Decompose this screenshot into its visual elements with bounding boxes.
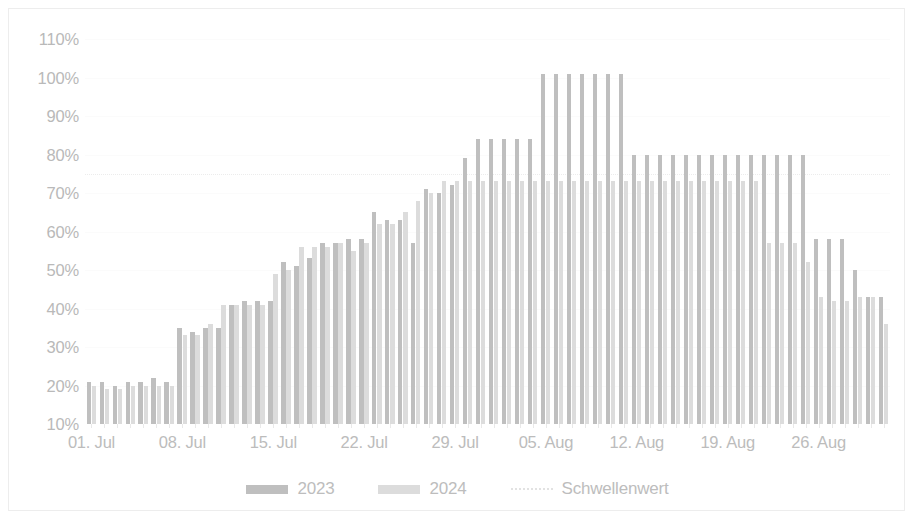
bar-2024-26Aug	[819, 297, 823, 424]
x-tick	[91, 424, 92, 428]
bar-2024-06Aug	[559, 181, 563, 424]
bar-2023-02Jul	[100, 382, 104, 424]
bar-2024-23Jul	[377, 224, 381, 424]
plot-area	[85, 39, 890, 424]
y-axis-label: 10%	[47, 415, 79, 434]
x-axis-label: 29. Jul	[431, 433, 478, 452]
bar-2024-12Jul	[234, 305, 238, 424]
y-axis-label: 80%	[47, 145, 79, 164]
chart-frame: 110%100%90%80%70%60%50%40%30%20%10% 01. …	[8, 8, 905, 511]
x-tick	[390, 424, 391, 428]
bar-2023-18Jul	[307, 258, 311, 424]
bar-2023-09Aug	[593, 74, 597, 424]
x-tick	[520, 424, 521, 428]
x-axis-label: 05. Aug	[519, 433, 574, 452]
x-axis-label: 08. Jul	[159, 433, 206, 452]
x-tick	[728, 424, 729, 428]
legend-swatch-icon	[378, 485, 420, 494]
x-tick	[338, 424, 339, 428]
bar-2024-11Jul	[221, 305, 225, 424]
bar-2023-05Jul	[138, 382, 142, 424]
gridline	[85, 155, 890, 156]
x-tick	[377, 424, 378, 428]
gridline	[85, 116, 890, 117]
bar-2023-04Jul	[126, 382, 130, 424]
bar-2023-27Jul	[424, 189, 428, 424]
x-tick	[767, 424, 768, 428]
bar-2024-30Aug	[871, 297, 875, 424]
legend-item-schwellenwert[interactable]: Schwellenwert	[511, 479, 669, 499]
x-tick	[442, 424, 443, 428]
x-tick	[481, 424, 482, 428]
bar-2023-12Aug	[632, 155, 636, 425]
x-tick	[598, 424, 599, 428]
bar-2024-17Jul	[299, 247, 303, 424]
bar-2024-29Jul	[455, 181, 459, 424]
bar-2023-23Jul	[372, 212, 376, 424]
x-axis-label: 22. Jul	[341, 433, 388, 452]
bar-2023-12Jul	[229, 305, 233, 424]
gridline	[85, 39, 890, 40]
x-axis-label: 15. Jul	[250, 433, 297, 452]
bar-2023-21Jul	[346, 239, 350, 424]
x-axis-label: 01. Jul	[68, 433, 115, 452]
x-tick	[182, 424, 183, 428]
bar-2024-10Aug	[611, 181, 615, 424]
bar-2023-16Jul	[281, 262, 285, 424]
bar-2023-25Aug	[801, 155, 805, 425]
bar-2024-25Aug	[806, 262, 810, 424]
legend-item-2024[interactable]: 2024	[378, 479, 466, 499]
bar-2023-07Aug	[567, 74, 571, 424]
bar-2024-04Jul	[131, 386, 135, 425]
bar-2024-12Aug	[637, 181, 641, 424]
x-tick	[169, 424, 170, 428]
x-tick	[104, 424, 105, 428]
legend-label: 2023	[297, 479, 334, 499]
x-tick	[611, 424, 612, 428]
x-tick	[689, 424, 690, 428]
legend-label: 2024	[429, 479, 466, 499]
bar-2024-09Jul	[195, 335, 199, 424]
legend-swatch-icon	[246, 485, 288, 494]
bar-2024-14Jul	[260, 305, 264, 424]
x-tick	[741, 424, 742, 428]
bar-2023-07Jul	[164, 382, 168, 424]
bar-2024-02Aug	[507, 181, 511, 424]
bar-2023-30Jul	[463, 158, 467, 424]
x-tick	[754, 424, 755, 428]
bar-2023-24Aug	[788, 155, 792, 425]
bar-2023-31Jul	[476, 139, 480, 424]
bar-2024-29Aug	[858, 297, 862, 424]
chart-legend: 20232024Schwellenwert	[9, 479, 906, 499]
x-tick	[676, 424, 677, 428]
bar-2023-27Aug	[827, 239, 831, 424]
bar-2024-13Aug	[650, 181, 654, 424]
bar-2024-07Jul	[170, 386, 174, 425]
x-tick	[858, 424, 859, 428]
x-tick	[195, 424, 196, 428]
bar-2023-09Jul	[190, 332, 194, 424]
x-tick	[260, 424, 261, 428]
bar-2023-25Jul	[398, 220, 402, 424]
bar-2024-05Jul	[144, 386, 148, 425]
legend-item-2023[interactable]: 2023	[246, 479, 334, 499]
bar-2023-10Aug	[606, 74, 610, 424]
bar-2024-16Aug	[689, 181, 693, 424]
bar-2023-29Jul	[450, 185, 454, 424]
bar-2024-24Jul	[390, 224, 394, 424]
y-axis-label: 70%	[47, 184, 79, 203]
bar-2024-08Jul	[183, 335, 187, 424]
x-tick	[546, 424, 547, 428]
bar-2023-29Aug	[853, 270, 857, 424]
x-tick	[156, 424, 157, 428]
x-tick	[702, 424, 703, 428]
bar-2024-22Aug	[767, 243, 771, 424]
bar-2024-22Jul	[364, 243, 368, 424]
bar-2023-06Aug	[554, 74, 558, 424]
bar-2023-26Aug	[814, 239, 818, 424]
bar-2023-28Jul	[437, 193, 441, 424]
bar-2024-21Aug	[754, 181, 758, 424]
bar-2023-17Aug	[697, 155, 701, 425]
x-tick	[325, 424, 326, 428]
bar-2024-02Jul	[105, 389, 109, 424]
